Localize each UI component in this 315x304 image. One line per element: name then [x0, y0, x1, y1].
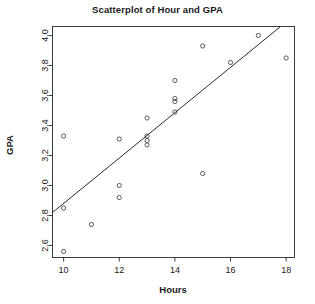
y-tick-label: 2.6 — [40, 239, 50, 252]
y-tick-label: 3.6 — [40, 89, 50, 102]
y-axis-label: GPA — [4, 135, 15, 155]
data-point — [256, 33, 260, 37]
trend-line — [53, 27, 281, 213]
chart-page: Scatterplot of Hour and GPA 2.62.83.03.2… — [0, 0, 315, 304]
data-point — [284, 56, 288, 60]
y-tick-label: 4.0 — [40, 29, 50, 42]
x-tick-label: 18 — [281, 265, 291, 275]
x-tick-label: 14 — [170, 265, 180, 275]
y-axis-ticks: 2.62.83.03.23.43.63.84.0 — [40, 29, 53, 252]
data-point — [145, 116, 149, 120]
y-tick-label: 3.8 — [40, 59, 50, 72]
x-axis-label: Hours — [159, 284, 186, 295]
y-tick-label: 3.0 — [40, 179, 50, 192]
y-tick-label: 3.2 — [40, 149, 50, 162]
data-point — [145, 143, 149, 147]
data-point — [145, 138, 149, 142]
data-point — [117, 195, 121, 199]
data-point — [62, 206, 66, 210]
plot-frame — [53, 27, 295, 258]
data-point — [201, 44, 205, 48]
data-point — [62, 249, 66, 253]
y-tick-label: 3.4 — [40, 119, 50, 132]
data-point — [173, 78, 177, 82]
data-point — [201, 171, 205, 175]
data-point — [173, 99, 177, 103]
x-axis-ticks: 1012141618 — [59, 258, 292, 275]
data-point — [117, 183, 121, 187]
data-point — [89, 222, 93, 226]
x-tick-label: 10 — [59, 265, 69, 275]
y-tick-label: 2.8 — [40, 209, 50, 222]
scatterplot-figure: 2.62.83.03.23.43.63.84.0 1012141618 Hour… — [0, 0, 315, 304]
data-point — [228, 60, 232, 64]
x-tick-label: 16 — [226, 265, 236, 275]
data-point — [62, 134, 66, 138]
regression-line — [53, 27, 281, 213]
data-point — [117, 137, 121, 141]
data-points — [62, 33, 289, 253]
x-tick-label: 12 — [114, 265, 124, 275]
